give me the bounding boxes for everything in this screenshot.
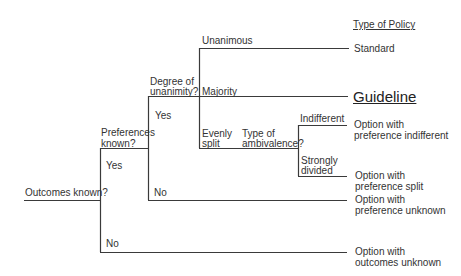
outcome-pref-indifferent-line1: Option with <box>354 119 404 130</box>
branch-preferences-no: No <box>154 187 167 198</box>
node-type-of-ambivalence-line2: ambivalence? <box>242 138 304 149</box>
branch-indifferent: Indifferent <box>300 113 344 124</box>
outcome-pref-split-line1: Option with <box>355 170 405 181</box>
outcome-pref-indifferent-line2: preference indifferent <box>354 130 448 141</box>
outcome-standard: Standard <box>354 43 395 54</box>
branch-outcomes-no: No <box>106 238 119 249</box>
outcome-pref-unknown-line2: preference unknown <box>355 205 446 216</box>
branch-preferences-yes: Yes <box>155 110 171 121</box>
branch-evenly-split-line2: split <box>202 138 220 149</box>
branch-majority: Majority <box>202 86 237 97</box>
branch-outcomes-yes: Yes <box>106 160 122 171</box>
outcome-outcomes-unknown-line1: Option with <box>355 246 405 257</box>
branch-strongly-divided-line2: divided <box>301 165 333 176</box>
node-preferences-known-line1: Preferences <box>101 127 155 138</box>
outcome-guideline: Guideline <box>353 89 416 105</box>
node-degree-of-unanimity-line2: unanimity? <box>150 86 198 97</box>
node-preferences-known-line2: known? <box>101 138 135 149</box>
outcome-outcomes-unknown-line2: outcomes unknown <box>355 257 441 268</box>
branch-unanimous: Unanimous <box>202 35 253 46</box>
type-of-policy-header: Type of Policy <box>353 19 415 30</box>
node-outcomes-known: Outcomes known? <box>25 187 108 198</box>
outcome-pref-split-line2: preference split <box>355 181 423 192</box>
outcome-pref-unknown-line1: Option with <box>355 194 405 205</box>
